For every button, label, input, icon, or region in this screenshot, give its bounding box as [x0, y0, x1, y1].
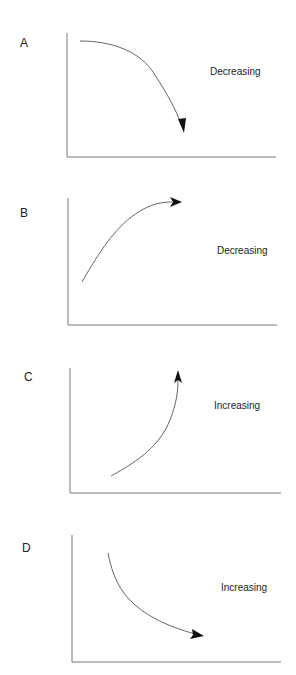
diagram-canvas: A Decreasing B Decreasing C Increasing D… [0, 0, 296, 675]
panel-c: C Increasing [24, 368, 281, 493]
axes [68, 198, 277, 325]
arrowhead-icon [190, 629, 204, 639]
axes [70, 368, 281, 493]
trend-label: Increasing [221, 582, 267, 593]
axes [72, 535, 281, 662]
curve [111, 380, 178, 476]
panel-b: B Decreasing [20, 197, 277, 325]
panel-label: C [24, 370, 33, 384]
curve [80, 41, 181, 124]
panel-label: D [22, 541, 31, 555]
panel-d: D Increasing [22, 535, 281, 662]
curve [82, 202, 172, 282]
panel-label: B [20, 206, 28, 220]
axes [67, 33, 276, 157]
panel-label: A [20, 36, 28, 50]
trend-label: Decreasing [217, 245, 268, 256]
panel-a: A Decreasing [20, 33, 276, 157]
arrowhead-icon [178, 118, 186, 133]
trend-label: Decreasing [210, 66, 261, 77]
curve [108, 553, 195, 634]
trend-label: Increasing [214, 400, 260, 411]
